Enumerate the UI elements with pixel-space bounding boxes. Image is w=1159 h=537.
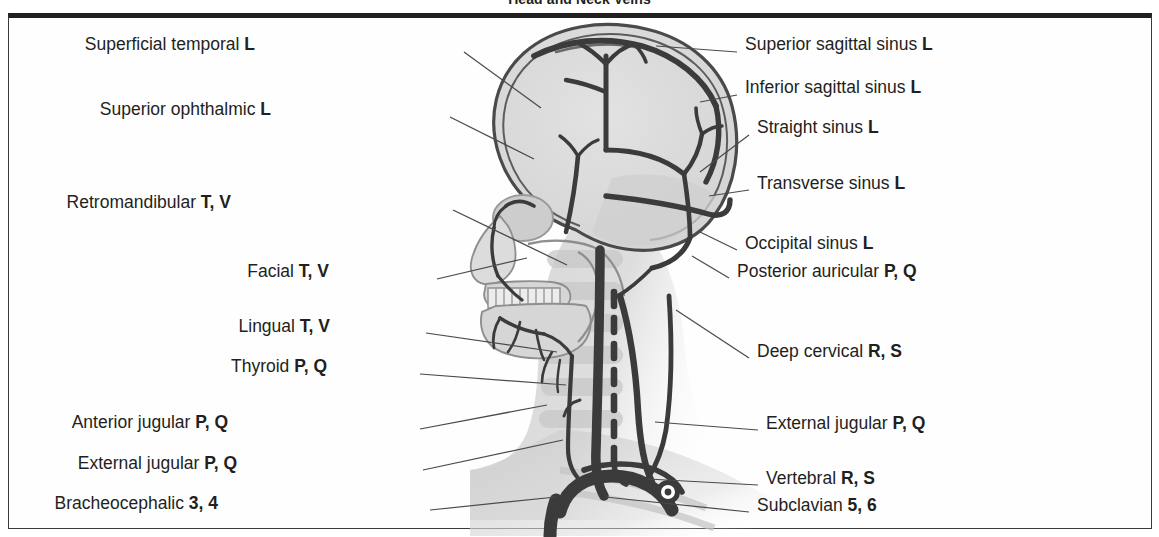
label-facial: Facial T, V	[0, 263, 329, 281]
label-name: Inferior sagittal sinus	[745, 77, 906, 97]
label-code: L	[868, 117, 879, 137]
label-name: Superior ophthalmic	[100, 99, 256, 119]
label-code: L	[894, 173, 905, 193]
label-name: Subclavian	[757, 495, 843, 515]
label-code: L	[260, 99, 271, 119]
label-code: R, S	[868, 341, 902, 361]
label-name: Superficial temporal	[85, 34, 240, 54]
label-subclavian: Subclavian 5, 6	[757, 497, 877, 515]
label-straight-sinus: Straight sinus L	[757, 119, 879, 137]
label-code: 3, 4	[189, 493, 218, 513]
label-thyroid: Thyroid P, Q	[0, 358, 327, 376]
label-code: R, S	[841, 468, 875, 488]
label-code: L	[244, 34, 255, 54]
label-name: Posterior auricular	[737, 261, 879, 281]
label-name: External jugular	[78, 453, 200, 473]
label-code: P, Q	[204, 453, 237, 473]
label-code: L	[863, 233, 874, 253]
leader-anterior-jugular	[420, 405, 547, 429]
label-name: Occipital sinus	[745, 233, 858, 253]
label-code: P, Q	[195, 412, 228, 432]
label-name: Anterior jugular	[72, 412, 191, 432]
label-name: Bracheocephalic	[55, 493, 184, 513]
label-bracheocephalic: Bracheocephalic 3, 4	[0, 495, 218, 513]
leader-deep-cervical	[676, 310, 749, 358]
label-transverse-sinus: Transverse sinus L	[757, 175, 905, 193]
label-name: Lingual	[239, 316, 295, 336]
label-name: Vertebral	[766, 468, 836, 488]
label-name: Facial	[247, 261, 294, 281]
label-superior-ophthalmic: Superior ophthalmic L	[0, 101, 271, 119]
label-occipital-sinus: Occipital sinus L	[745, 235, 873, 253]
label-code: P, Q	[294, 356, 327, 376]
label-external-jugular: External jugular P, Q	[0, 455, 237, 473]
label-code: T, V	[299, 261, 329, 281]
label-lingual: Lingual T, V	[0, 318, 330, 336]
label-superficial-temporal: Superficial temporal L	[0, 36, 255, 54]
label-superior-sagittal-sinus: Superior sagittal sinus L	[745, 36, 933, 54]
label-inferior-sagittal-sinus: Inferior sagittal sinus L	[745, 79, 921, 97]
label-anterior-jugular: Anterior jugular P, Q	[0, 414, 228, 432]
label-vertebral: Vertebral R, S	[766, 470, 875, 488]
leader-occipital-sinus	[700, 232, 737, 250]
label-name: Superior sagittal sinus	[745, 34, 917, 54]
label-code: P, Q	[892, 413, 925, 433]
label-posterior-auricular: Posterior auricular P, Q	[737, 263, 917, 281]
figure-stage: Superficial temporal LSuperior ophthalmi…	[0, 0, 1159, 537]
label-code: T, V	[300, 316, 330, 336]
label-code: T, V	[201, 192, 231, 212]
label-retromandibular: Retromandibular T, V	[0, 194, 231, 212]
label-name: Thyroid	[231, 356, 289, 376]
label-name: Straight sinus	[757, 117, 863, 137]
leader-posterior-auricular	[692, 256, 729, 278]
label-code: L	[922, 34, 933, 54]
label-external-jugular: External jugular P, Q	[766, 415, 925, 433]
label-code: L	[910, 77, 921, 97]
label-deep-cervical: Deep cervical R, S	[757, 343, 902, 361]
label-name: Deep cervical	[757, 341, 863, 361]
label-name: Retromandibular	[67, 192, 196, 212]
label-name: External jugular	[766, 413, 888, 433]
label-name: Transverse sinus	[757, 173, 890, 193]
label-code: P, Q	[884, 261, 917, 281]
label-code: 5, 6	[848, 495, 877, 515]
